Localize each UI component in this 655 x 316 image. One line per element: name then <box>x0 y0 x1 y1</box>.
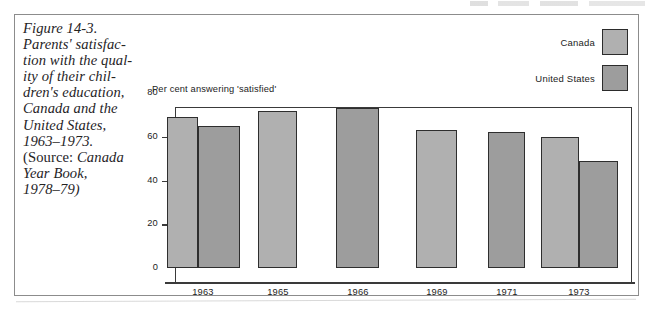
figure-panel: Figure 14-3.Parents' satisfac-tion with … <box>14 14 639 296</box>
bar-1973-canada <box>541 137 579 268</box>
bar-1969-canada <box>416 130 457 268</box>
bar-series-group <box>15 15 655 316</box>
x-tick-label: 1973 <box>559 287 599 297</box>
bar-1971-canada <box>488 132 525 268</box>
bar-1973-united-states <box>579 161 618 268</box>
scan-artifact-top <box>470 1 645 6</box>
x-tick-label: 1971 <box>487 287 527 297</box>
bar-1963-canada <box>167 117 198 268</box>
x-tick-label: 1965 <box>258 287 298 297</box>
x-tick-label: 1963 <box>183 287 223 297</box>
bar-1965-canada <box>258 111 297 269</box>
x-tick-label: 1966 <box>338 287 378 297</box>
bar-1963-united-states <box>198 126 240 268</box>
bar-1966-canada <box>336 108 379 268</box>
x-tick-label: 1969 <box>417 287 457 297</box>
